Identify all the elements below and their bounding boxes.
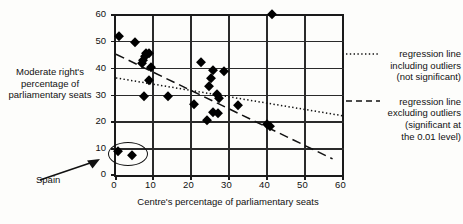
legend-label-line4: the 0.01 level) bbox=[348, 131, 461, 143]
y-tick-label-0: 0 bbox=[84, 168, 106, 179]
legend-label-line3: (not significant) bbox=[348, 71, 461, 83]
x-tick-label-0: 0 bbox=[102, 179, 126, 190]
scatter-plot-figure: Moderate right's percentage of parliamen… bbox=[0, 0, 463, 224]
y-tick-label-50: 50 bbox=[84, 35, 106, 46]
regression-lines bbox=[116, 14, 344, 175]
x-tick-label-20: 20 bbox=[176, 179, 200, 190]
tick-y-30 bbox=[111, 95, 116, 97]
plot-area bbox=[114, 14, 344, 177]
x-tick-label-30: 30 bbox=[214, 179, 238, 190]
tick-y-50 bbox=[111, 41, 116, 43]
y-tick-label-30: 30 bbox=[84, 89, 106, 100]
regression-line-including-outliers bbox=[116, 78, 344, 116]
y-tick-label-10: 10 bbox=[84, 142, 106, 153]
y-tick-label-60: 60 bbox=[84, 8, 106, 19]
spain-annotation-label: Spain bbox=[36, 174, 60, 185]
y-tick-label-40: 40 bbox=[84, 62, 106, 73]
legend-label-line2: including outliers bbox=[348, 60, 461, 72]
dotted-line-swatch-icon bbox=[346, 52, 380, 56]
x-tick-label-40: 40 bbox=[252, 179, 276, 190]
legend-item-including-outliers: regression line including outliers (not … bbox=[348, 48, 461, 83]
legend-label-line3: (significant at bbox=[348, 119, 461, 131]
x-tick-label-50: 50 bbox=[290, 179, 314, 190]
legend: regression line including outliers (not … bbox=[348, 48, 461, 155]
tick-y-40 bbox=[111, 68, 116, 70]
legend-label-line2: excluding outliers bbox=[348, 107, 461, 119]
x-tick-label-60: 60 bbox=[328, 179, 352, 190]
x-axis-title: Centre's percentage of parliamentary sea… bbox=[114, 196, 342, 207]
dashed-line-swatch-icon bbox=[346, 99, 380, 103]
y-tick-label-20: 20 bbox=[84, 115, 106, 126]
x-tick-label-10: 10 bbox=[138, 179, 162, 190]
legend-item-excluding-outliers: regression line excluding outliers (sign… bbox=[348, 96, 461, 142]
tick-y-60 bbox=[111, 14, 116, 16]
tick-y-0 bbox=[111, 174, 116, 176]
tick-y-20 bbox=[111, 121, 116, 123]
spain-outlier-ellipse bbox=[108, 142, 148, 166]
